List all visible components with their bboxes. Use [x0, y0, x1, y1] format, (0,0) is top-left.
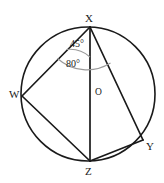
vertex-label-x: X	[85, 13, 93, 24]
geometry-figure: X W Y Z O 45° 80°	[0, 0, 164, 183]
geometry-canvas	[0, 0, 164, 183]
chord-wz	[22, 96, 90, 161]
chord-xy	[90, 27, 143, 140]
angle-label-45: 45°	[70, 39, 84, 49]
vertex-label-w: W	[9, 89, 19, 100]
chord-zy	[90, 140, 143, 161]
angle-label-80: 80°	[66, 59, 80, 69]
vertex-label-z: Z	[85, 166, 92, 177]
circle-outline	[21, 27, 155, 161]
center-label-o: O	[95, 88, 102, 98]
angle-arc-45	[67, 49, 91, 57]
vertex-label-y: Y	[146, 141, 154, 152]
